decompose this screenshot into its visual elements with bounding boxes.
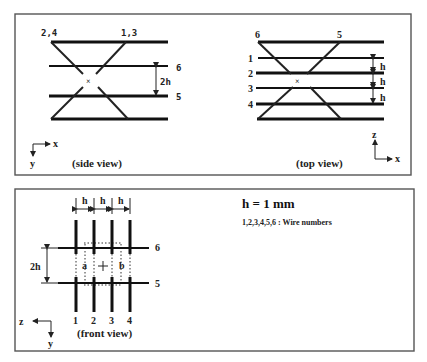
top-gap-label: h [380, 61, 386, 72]
top-axis-z: z [372, 129, 377, 140]
center-cross-icon: × [295, 77, 300, 86]
top-wire-label: 1 [248, 53, 253, 64]
side-axis-y: y [30, 158, 35, 169]
side-diag [51, 87, 83, 119]
spacing-note: h = 1 mm [242, 196, 295, 211]
side-view: × 2,4 1,3 6 5 2h x y (side view) [30, 28, 181, 170]
front-gap-label: h [82, 195, 88, 206]
top-label-5: 5 [337, 29, 342, 40]
front-label-2h: 2h [30, 261, 41, 272]
front-wire-label: 1 [73, 315, 78, 326]
side-axis-x: x [53, 138, 58, 149]
legend: h = 1 mm 1,2,3,4,5,6 : Wire numbers [242, 196, 332, 227]
top-wire-label: 2 [248, 68, 253, 79]
side-label-2-4: 2,4 [41, 28, 58, 38]
front-view-caption: (front view) [77, 327, 132, 340]
front-gap-label: h [100, 195, 106, 206]
side-label-5: 5 [176, 92, 181, 102]
front-view: h h h a b 2h 6 5 1 [19, 195, 160, 349]
top-label-6: 6 [255, 29, 260, 40]
side-label-6: 6 [176, 63, 181, 73]
side-view-caption: (side view) [72, 157, 122, 170]
top-gap-label: h [380, 76, 386, 87]
front-wire-label: 2 [91, 315, 96, 326]
side-label-2h: 2h [160, 77, 171, 87]
front-wire-label: 3 [109, 315, 114, 326]
front-label-6: 6 [155, 242, 160, 253]
region-b-label: b [119, 260, 125, 271]
front-axis-y: y [48, 338, 53, 349]
top-wire-label: 4 [248, 99, 253, 110]
front-wire-label: 4 [127, 315, 132, 326]
wire-chamber-diagram: × 2,4 1,3 6 5 2h x y (side view) × h h h [0, 0, 427, 362]
top-view: × h h h 6 5 1 2 3 4 z x (top view) [248, 29, 400, 170]
side-diag [98, 87, 128, 119]
front-axis-z: z [19, 316, 24, 327]
side-diag [96, 42, 126, 74]
side-label-1-3: 1,3 [121, 28, 137, 38]
front-gap-label: h [118, 195, 124, 206]
top-axis-x: x [395, 153, 400, 164]
region-a-label: a [82, 260, 87, 271]
top-gap-label: h [380, 92, 386, 103]
top-view-caption: (top view) [296, 157, 343, 170]
front-label-5: 5 [155, 278, 160, 289]
side-diag [51, 42, 83, 74]
wire-number-note: 1,2,3,4,5,6 : Wire numbers [242, 218, 332, 227]
top-wire-label: 3 [248, 83, 253, 94]
center-cross-icon: × [86, 77, 91, 86]
